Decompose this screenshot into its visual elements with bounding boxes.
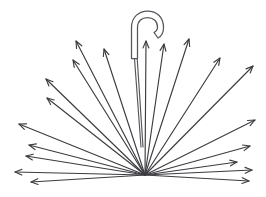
umbrella-shaft: [135, 59, 144, 148]
umbrella-hook-outline: [132, 11, 164, 59]
ray-20: [145, 175, 249, 181]
ray-12: [145, 44, 164, 175]
umbrella-arrow-fan-figure: [0, 0, 266, 197]
illustration-canvas: [0, 0, 266, 197]
ray-15: [145, 66, 253, 175]
ray-10: [31, 175, 145, 182]
ray-6: [19, 124, 145, 175]
ray-14-arrowhead: [214, 58, 220, 65]
ray-5: [47, 98, 145, 175]
ray-3-arrowhead: [73, 60, 79, 67]
ray-3: [73, 60, 145, 175]
ray-4: [46, 79, 145, 175]
ray-11: [145, 41, 146, 175]
ray-13: [145, 39, 189, 175]
ray-7: [29, 145, 145, 175]
